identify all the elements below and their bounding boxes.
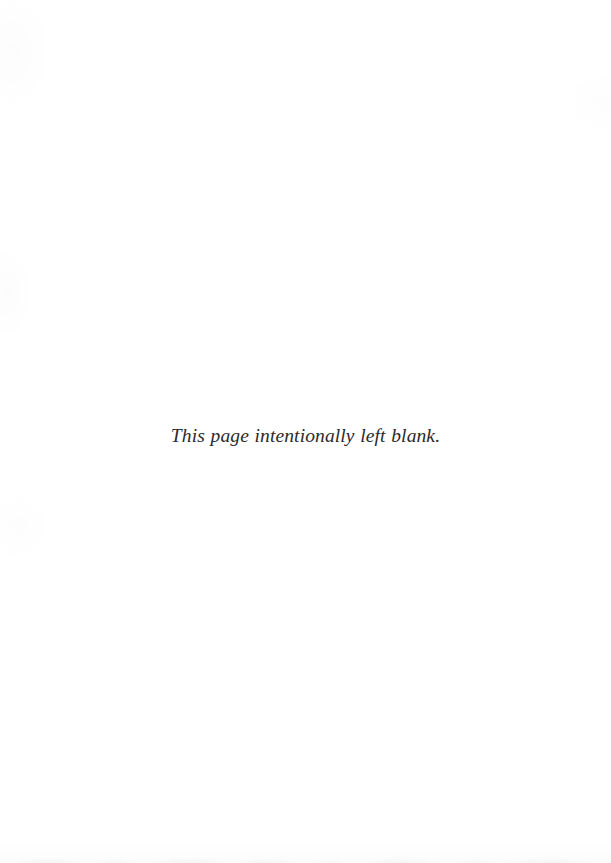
page-intentionally-blank-notice: This page intentionally left blank. — [0, 424, 611, 448]
scan-edge-noise — [0, 841, 611, 863]
scanned-page: This page intentionally left blank. — [0, 0, 611, 863]
